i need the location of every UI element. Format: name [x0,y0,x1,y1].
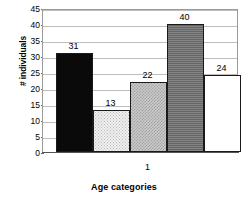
bar-value-label: 40 [166,13,203,22]
y-tick-label: 30 [14,53,40,62]
x-axis-title: Age categories [0,182,248,192]
y-tick-label: 25 [14,69,40,78]
y-tick-label: 35 [14,37,40,46]
bar [93,110,130,152]
y-tick-label: 20 [14,85,40,94]
bar [56,53,93,152]
bar-group [43,10,237,152]
y-axis-ticks: 051015202530354045 [14,0,40,204]
x-axis-line [42,152,239,153]
y-tick-mark [41,153,44,154]
bar-value-label: 22 [129,71,166,80]
plot-area [42,9,238,153]
y-tick-label: 10 [14,117,40,126]
bar [204,75,241,152]
bar-chart: # individuals 051015202530354045 3113224… [0,0,248,204]
y-tick-label: 0 [14,149,40,158]
y-tick-label: 40 [14,21,40,30]
bar-value-label: 31 [55,42,92,51]
y-tick-label: 15 [14,101,40,110]
bar [167,24,204,152]
bar-value-label: 13 [92,99,129,108]
bar [130,82,167,152]
x-tick-label: 1 [55,163,240,172]
y-tick-label: 5 [14,133,40,142]
bar-value-label: 24 [203,64,240,73]
y-tick-label: 45 [14,5,40,14]
